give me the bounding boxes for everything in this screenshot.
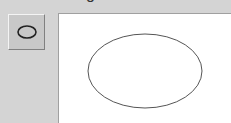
drawn-ellipse[interactable]: [88, 34, 202, 108]
canvas-drawing: [59, 14, 231, 123]
drawing-canvas[interactable]: [58, 13, 231, 123]
cropped-title-text: g: [86, 0, 95, 2]
ellipse-tool-button[interactable]: [8, 14, 45, 50]
ellipse-icon: [16, 24, 38, 40]
